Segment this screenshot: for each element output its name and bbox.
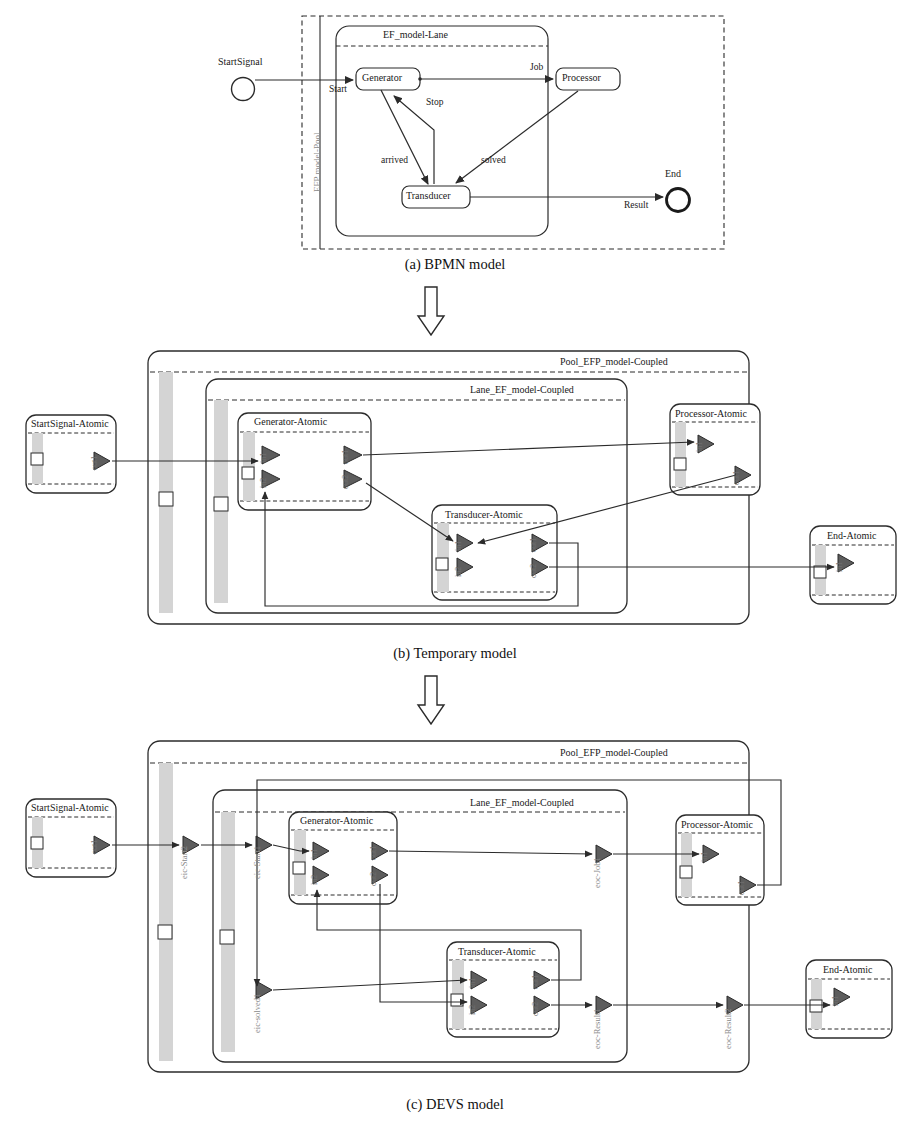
port-label-generator-out2-c: out2 [369, 872, 378, 886]
atomic-title-end-c: End-Atomic [823, 964, 872, 975]
port-label-eic-start1-c: eic-Start1 [252, 846, 262, 879]
flow-stop-a [394, 96, 434, 184]
pool-label-c: Pool_EFP_model-Coupled [560, 747, 668, 758]
port-label-transducer-in2-b: in2 [454, 567, 463, 577]
flow-label-start-a: Start [329, 84, 347, 94]
lane-port-marker-c [220, 930, 234, 944]
port-label-transducer-out2-b: out2 [529, 564, 538, 578]
atomic-title-processor-c: Processor-Atomic [681, 819, 753, 830]
port-label-generator-out1-b: out1 [341, 450, 350, 464]
pool-label-b: Pool_EFP_model-Coupled [560, 356, 668, 367]
end-event-a [667, 189, 690, 212]
port-label-eoc-result2-c: eoc-Result2 [723, 1008, 733, 1049]
pool-band-c [159, 763, 173, 1061]
port-label-startsignal-out1-b: out1 [90, 456, 99, 470]
task-label-generator-a: Generator [362, 72, 402, 83]
flow-arrived-a [381, 90, 428, 184]
pool-port-marker-b [159, 492, 173, 506]
flow-label-job-a: Job [530, 62, 543, 72]
task-label-transducer-a: Transducer [406, 190, 451, 201]
port-label-generator-in1-b: in1 [259, 453, 268, 463]
port-label-processor-out1-b: out1 [732, 471, 741, 485]
pool-boundary-a [302, 16, 724, 249]
transform-arrow-b-c [418, 676, 444, 724]
figure-root: EFP model-Pool EF_model-Lane StartSignal… [0, 0, 905, 1137]
lane-coupled-c [213, 790, 627, 1062]
flow-label-arrived-a: arrived [381, 155, 408, 165]
port-label-transducer-out1-b: out1 [529, 538, 538, 552]
caption-panel-b: (b) Temporary model [330, 645, 580, 662]
port-label-generator-in1-c: in1 [310, 849, 319, 859]
port-label-processor-in1-c: in1 [700, 852, 709, 862]
port-label-generator-in2-b: in2 [259, 478, 268, 488]
pool-label-a: EFP model-Pool [312, 133, 322, 192]
port-label-eoc-job1-c: eoc-Job1 [592, 857, 602, 888]
start-event-label-a: StartSignal [218, 56, 262, 67]
flow-label-result-a: Result [624, 200, 648, 210]
port-label-transducer-out1-c: out1 [531, 975, 540, 989]
panel-c-devs [26, 741, 892, 1072]
atomic-title-processor-b: Processor-Atomic [675, 408, 747, 419]
flow-job-origin-dot-a [418, 77, 422, 81]
port-label-transducer-in1-c: in1 [468, 978, 477, 988]
port-label-transducer-in1-b: in1 [454, 541, 463, 551]
end-event-label-a: End [665, 168, 681, 179]
atomic-title-startsignal-c: StartSignal-Atomic [31, 802, 109, 813]
atomic-title-generator-b: Generator-Atomic [254, 416, 327, 427]
lane-label-a: EF_model-Lane [383, 29, 448, 40]
port-label-generator-out2-b: out2 [341, 475, 350, 489]
coupling-eicsolved1-to-trans-in1-c [273, 980, 467, 990]
port-label-processor-out1-c: out1 [737, 881, 746, 895]
flow-label-solved-a: solved [481, 155, 506, 165]
port-label-generator-in2-c: in2 [310, 875, 319, 885]
panel-a-bpmn [232, 16, 725, 249]
panel-b-temporary [26, 351, 896, 624]
port-label-eoc-result1-c: eoc-Result1 [592, 1008, 602, 1049]
flow-label-stop-a: Stop [426, 97, 443, 107]
atomic-title-startsignal-b: StartSignal-Atomic [31, 418, 109, 429]
diagram-canvas [0, 0, 905, 1137]
port-label-transducer-in2-c: in2 [468, 1005, 477, 1015]
port-label-eic-start2-c: eic-Start2 [179, 846, 189, 879]
lane-port-marker-b [214, 497, 228, 511]
atomic-title-end-b: End-Atomic [827, 530, 876, 541]
port-label-transducer-out2-c: out2 [531, 1002, 540, 1016]
transform-arrow-a-b [418, 287, 444, 335]
port-label-processor-in1-b: in1 [695, 442, 704, 452]
flow-solved-a [456, 91, 578, 183]
port-label-end-in1-b: in1 [835, 562, 844, 572]
port-label-startsignal-out1-c: out1 [90, 840, 99, 854]
pool-port-marker-c [158, 925, 172, 939]
task-label-processor-a: Processor [562, 72, 601, 83]
start-event-a [232, 78, 255, 101]
coupling-job-b [363, 442, 694, 455]
port-label-eic-solved1-c: eic-solved1 [252, 994, 262, 1033]
lane-label-b: Lane_EF_model-Coupled [470, 384, 574, 395]
caption-panel-a: (a) BPMN model [330, 256, 580, 273]
port-label-generator-out1-c: out1 [369, 846, 378, 860]
caption-panel-c: (c) DEVS model [330, 1096, 580, 1113]
lane-label-c: Lane_EF_model-Coupled [470, 797, 574, 808]
atomic-title-generator-c: Generator-Atomic [300, 815, 373, 826]
atomic-title-transducer-b: Transducer-Atomic [445, 509, 523, 520]
port-label-end-in1-c: in1 [831, 996, 840, 1006]
atomic-title-transducer-c: Transducer-Atomic [458, 946, 536, 957]
coupling-gen-out1-to-eocjob1-c [389, 851, 592, 854]
